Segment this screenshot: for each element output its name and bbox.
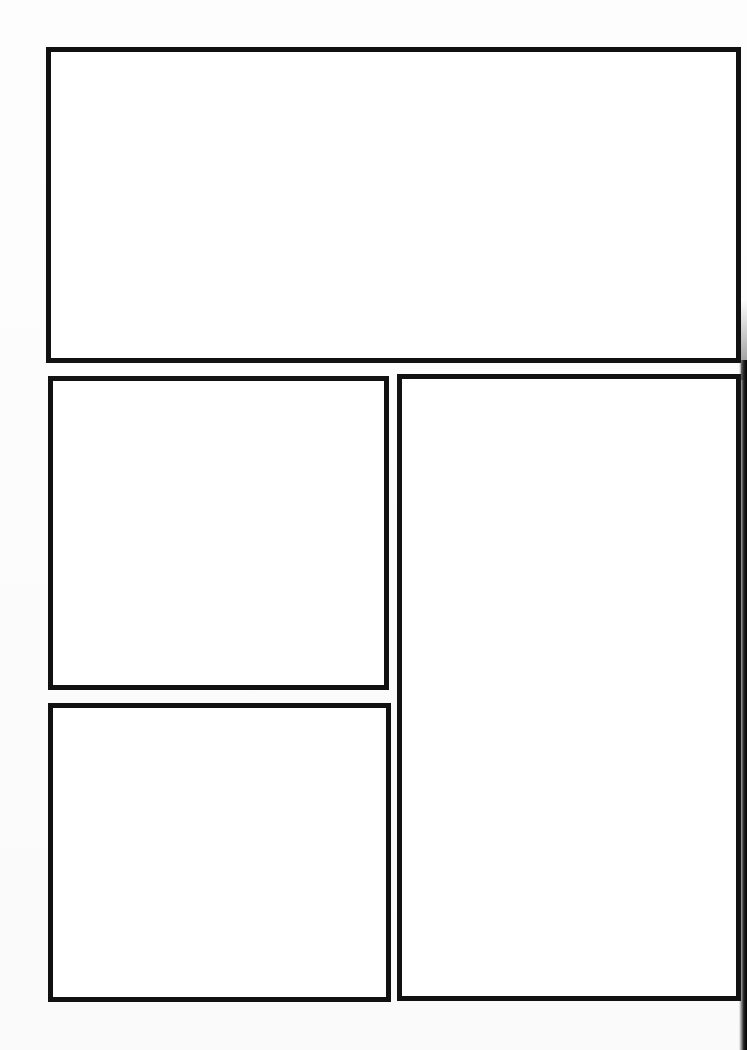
- panel-top-wide: [46, 47, 741, 363]
- panel-middle-left: [48, 376, 389, 690]
- panel-right-tall: [397, 374, 741, 1001]
- scan-shadow-edge: [739, 360, 747, 1050]
- panel-bottom-left: [48, 703, 391, 1002]
- comic-page: [0, 0, 747, 1050]
